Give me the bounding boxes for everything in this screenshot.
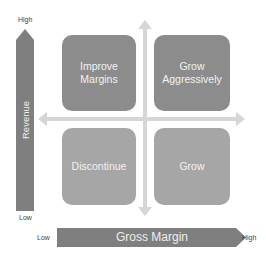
gross-margin-low-label: Low (37, 234, 50, 241)
quadrant-discontinue: Discontinue (62, 128, 136, 205)
quadrant-label-line2: Margins (80, 73, 118, 86)
horizontal-cross-arrow (38, 112, 245, 126)
quadrant-label-line1: Grow (162, 60, 222, 73)
revenue-low-label: Low (19, 214, 32, 221)
revenue-high-label: High (18, 16, 32, 23)
quadrant-label-line2: Aggressively (162, 73, 222, 86)
quadrant-label-line1: Grow (179, 160, 204, 173)
quadrant-grow: Grow (154, 128, 230, 205)
revenue-axis-label: Revenue (20, 101, 31, 139)
quadrant-label-line1: Discontinue (72, 160, 127, 173)
quadrant-improve-margins: Improve Margins (62, 35, 136, 111)
gross-margin-axis-label: Gross Margin (116, 230, 188, 244)
quadrant-grow-aggressively: Grow Aggressively (154, 35, 230, 111)
gross-margin-high-label: High (242, 234, 256, 241)
quadrant-label-line1: Improve (80, 60, 118, 73)
